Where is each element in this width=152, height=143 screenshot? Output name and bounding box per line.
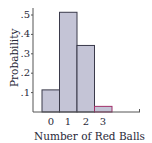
bars-group — [42, 12, 112, 112]
y-axis-label: Probability — [7, 31, 21, 87]
bar-1 — [60, 12, 78, 112]
x-tick-label: 0 — [46, 117, 56, 127]
bar-0 — [42, 90, 60, 112]
probability-histogram: Probability .5 .4 .3 .2 .1 0 1 2 3 Numbe… — [0, 0, 152, 143]
bar-2 — [77, 45, 95, 112]
x-tick-label: 1 — [63, 117, 73, 127]
y-tick-label: .3 — [18, 49, 30, 59]
bar-3 — [95, 106, 113, 112]
y-tick-label: .1 — [18, 88, 30, 98]
x-tick-label: 2 — [81, 117, 91, 127]
x-axis-label: Number of Red Balls — [32, 130, 147, 142]
y-tick-label: .5 — [18, 10, 30, 20]
x-tick-label: 3 — [98, 117, 108, 127]
y-tick-label: .2 — [18, 68, 30, 78]
y-tick-label: .4 — [18, 29, 30, 39]
